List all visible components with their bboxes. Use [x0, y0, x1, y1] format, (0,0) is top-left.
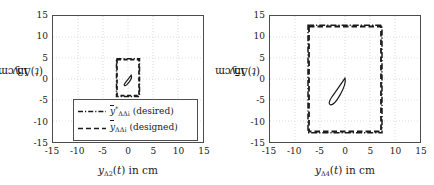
x-tick-label: -10 [287, 146, 302, 156]
x-tick-label: 15 [198, 146, 209, 156]
y-tick-label: 15 [4, 10, 48, 20]
x-tick-label: -5 [98, 146, 107, 156]
y-tick-label: -5 [4, 95, 48, 105]
x-tick-label: -15 [262, 146, 277, 156]
x-tick-label: 15 [415, 146, 426, 156]
y-tick-label: 15 [221, 10, 265, 20]
trace-designed-left [117, 60, 139, 96]
y-tick-label: -10 [4, 117, 48, 127]
legend-entry-desired: y*ΔΔi (desired) [78, 103, 192, 121]
legend-swatch-dashed-icon [78, 124, 106, 133]
panel-right: yΔ5(t) in cm 15 10 5 0 -5 -10 -15 [217, 0, 434, 185]
x-tick-label: 10 [173, 146, 184, 156]
panel-left: yΔ3(t) in cm 15 10 5 0 -5 -10 -15 [0, 0, 217, 185]
y-tick-label: 0 [221, 74, 265, 84]
plot-svg-right [270, 16, 420, 142]
legend-label-desired: y*ΔΔi (desired) [110, 103, 174, 121]
x-tick-label: 5 [367, 146, 373, 156]
x-tick-label: 0 [125, 146, 131, 156]
y-tick-label: -5 [221, 95, 265, 105]
y-tick-label: 5 [221, 53, 265, 63]
legend-entry-designed: yΔΔi (designed) [78, 121, 192, 137]
x-axis-label-left-rest: (t) in cm [113, 164, 158, 176]
y-tick-label: 10 [4, 31, 48, 41]
x-tick-label: 10 [390, 146, 401, 156]
y-tick-label: 10 [221, 31, 265, 41]
x-tick-label: 0 [342, 146, 348, 156]
y-tick-labels-left: 15 10 5 0 -5 -10 -15 [0, 0, 48, 158]
x-axis-label-left-subscript: Δ2 [104, 170, 113, 178]
legend-swatch-dash-dot-icon [78, 107, 106, 116]
x-axis-label-right: yΔ4(t) in cm [269, 164, 421, 178]
x-axis-label-right-subscript: Δ4 [321, 170, 330, 178]
y-tick-label: 0 [4, 74, 48, 84]
x-tick-labels-left: -15 -10 -5 0 5 10 15 [0, 146, 217, 160]
y-tick-label: 5 [4, 53, 48, 63]
trace-inner-loop-right [329, 78, 345, 105]
x-tick-label: 5 [150, 146, 156, 156]
x-axis-label-right-rest: (t) in cm [330, 164, 375, 176]
legend-label-designed: yΔΔi (designed) [110, 121, 178, 137]
x-axis-label-left: yΔ2(t) in cm [52, 164, 204, 178]
plot-area-right [269, 15, 421, 143]
x-tick-labels-right: -15 -10 -5 0 5 10 15 [217, 146, 434, 160]
x-tick-label: -5 [315, 146, 324, 156]
figure-two-panel-trajectories: yΔ3(t) in cm 15 10 5 0 -5 -10 -15 [0, 0, 434, 185]
legend-left: y*ΔΔi (desired) yΔΔi (designed) [73, 99, 198, 141]
x-tick-label: -15 [45, 146, 60, 156]
y-tick-label: -10 [221, 117, 265, 127]
x-tick-label: -10 [70, 146, 85, 156]
y-tick-labels-right: 15 10 5 0 -5 -10 -15 [217, 0, 265, 158]
